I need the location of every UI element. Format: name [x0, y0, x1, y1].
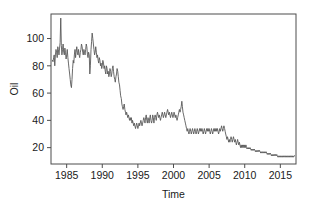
oil-time-series-chart: 204060801001985199019952000200520102015 …	[0, 0, 312, 213]
y-tick-label: 40	[32, 114, 44, 126]
chart-canvas: 204060801001985199019952000200520102015 …	[0, 0, 312, 213]
y-tick-label: 80	[32, 60, 44, 72]
chart-background	[0, 0, 312, 213]
x-tick-label: 1995	[126, 169, 150, 181]
y-axis-title: Oil	[8, 83, 20, 96]
y-tick-label: 100	[26, 32, 44, 44]
x-tick-label: 2000	[162, 169, 186, 181]
y-tick-label: 60	[32, 87, 44, 99]
x-tick-label: 1985	[55, 169, 79, 181]
x-axis-title: Time	[162, 188, 185, 200]
x-tick-label: 2015	[269, 169, 293, 181]
x-tick-label: 2010	[233, 169, 257, 181]
y-tick-label: 20	[32, 141, 44, 153]
x-tick-label: 2005	[197, 169, 221, 181]
x-tick-label: 1990	[91, 169, 115, 181]
